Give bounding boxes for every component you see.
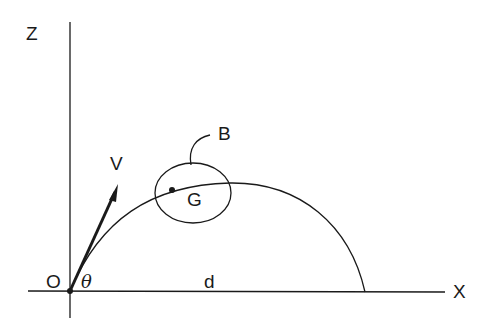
- velocity-vector: [70, 192, 115, 291]
- angle-label: θ: [81, 271, 92, 292]
- range-label: d: [204, 271, 215, 292]
- origin-point: [67, 288, 73, 294]
- projectile-diagram: Z X O θ V d B G: [0, 0, 492, 330]
- x-axis-label: X: [453, 281, 466, 302]
- origin-label: O: [46, 271, 61, 292]
- center-of-mass-point: [169, 187, 175, 193]
- body-callout-line: [190, 135, 210, 165]
- center-of-mass-label: G: [187, 189, 202, 210]
- z-axis-label: Z: [26, 23, 38, 44]
- velocity-arrowhead-icon: [109, 184, 118, 202]
- velocity-label: V: [110, 153, 123, 174]
- body-label: B: [218, 123, 231, 144]
